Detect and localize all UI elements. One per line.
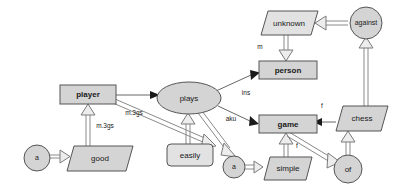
- node-shape-circle: [24, 145, 50, 171]
- node-shape-rect: [259, 115, 317, 133]
- hollow-arrowhead: [221, 143, 236, 157]
- edge-a-mid-to-simple[interactable]: [245, 161, 263, 173]
- dependency-graph: a good player plays easily: [0, 0, 398, 193]
- edge-unknown-to-person[interactable]: [279, 35, 293, 61]
- edge-label-m: m: [257, 43, 262, 50]
- node-simple[interactable]: simple: [264, 157, 312, 180]
- edge-label-f-top: f: [321, 102, 323, 109]
- edge-plays-to-game[interactable]: [218, 106, 259, 126]
- edge-simple-to-game[interactable]: [279, 133, 293, 157]
- node-a-mid[interactable]: a: [223, 156, 245, 178]
- node-shape-parallelogram: [264, 157, 312, 180]
- node-person[interactable]: person: [259, 61, 317, 79]
- node-shape-rect: [60, 85, 116, 104]
- node-shape-ellipse: [157, 82, 221, 114]
- node-unknown[interactable]: unknown: [261, 11, 318, 35]
- node-chess[interactable]: chess: [336, 106, 388, 131]
- hollow-arrowhead: [341, 131, 355, 142]
- node-shape-rect: [259, 61, 317, 79]
- node-shape-circle: [223, 156, 245, 178]
- node-against[interactable]: against: [350, 7, 382, 39]
- node-plays[interactable]: plays: [157, 82, 221, 114]
- hollow-arrowhead: [254, 161, 263, 173]
- edge-label-m3gs-left: m.3gs: [96, 122, 114, 130]
- node-game[interactable]: game: [259, 115, 317, 133]
- edge-label-aku: aku: [226, 115, 237, 122]
- node-shape-circle: [350, 7, 382, 39]
- diagram-canvas: a good player plays easily: [0, 0, 398, 193]
- node-easily[interactable]: easily: [167, 144, 213, 166]
- node-shape-circle: [334, 155, 362, 183]
- edge-plays-to-person[interactable]: [216, 70, 260, 91]
- edge-line: [218, 106, 250, 121]
- node-good[interactable]: good: [67, 146, 133, 171]
- node-player[interactable]: player: [60, 85, 116, 104]
- edge-player-to-plays[interactable]: [116, 91, 160, 99]
- edge-of-to-chess[interactable]: [341, 131, 355, 155]
- node-of[interactable]: of: [334, 155, 362, 183]
- node-shape-parallelogram: [336, 106, 388, 131]
- node-shape-parallelogram: [261, 11, 318, 35]
- edge-line-2: [289, 132, 332, 158]
- hollow-arrowhead: [315, 16, 326, 30]
- hollow-arrowhead: [60, 150, 70, 163]
- edge-good-to-player[interactable]: [81, 104, 95, 146]
- hollow-arrowhead: [81, 104, 95, 115]
- hollow-arrowhead: [279, 50, 293, 61]
- edge-a-to-good[interactable]: [50, 150, 70, 163]
- edge-chess-to-against[interactable]: [359, 37, 373, 106]
- filled-arrowhead: [249, 116, 259, 126]
- node-a-left[interactable]: a: [24, 145, 50, 171]
- hollow-arrowhead: [181, 113, 195, 124]
- edge-line: [216, 75, 251, 91]
- node-shape-parallelogram: [67, 146, 133, 171]
- edge-label-ins: ins: [242, 89, 251, 96]
- edge-against-to-unknown[interactable]: [315, 16, 348, 30]
- node-shape-roundrect: [167, 144, 213, 166]
